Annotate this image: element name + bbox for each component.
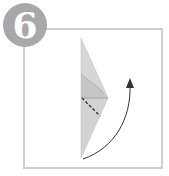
- arrow-head-icon: [126, 78, 134, 88]
- paper-lower-body: [81, 98, 108, 158]
- origami-diagram: [0, 0, 169, 176]
